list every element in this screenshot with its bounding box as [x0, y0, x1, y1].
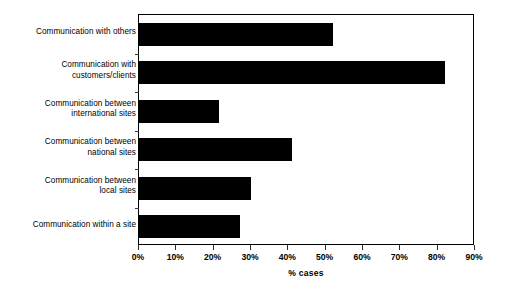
- bar-row: [139, 131, 473, 170]
- category-label-line: customers/clients: [4, 71, 136, 82]
- x-axis-tick: [362, 245, 363, 250]
- x-axis-tick-label: 70%: [379, 252, 419, 262]
- bar: [139, 100, 219, 123]
- x-axis-tick-label: 10%: [155, 252, 195, 262]
- x-axis-tick-labels: 0%10%20%30%40%50%60%70%80%90%: [0, 252, 507, 266]
- x-axis-tick-label: 40%: [267, 252, 307, 262]
- category-label-line: Communication with: [4, 60, 136, 71]
- category-label: Communication betweennational sites: [4, 137, 136, 158]
- x-axis-tick-label: 0%: [118, 252, 158, 262]
- x-axis-tick: [287, 245, 288, 250]
- x-axis-tick-label: 50%: [305, 252, 345, 262]
- category-label-line: Communication between: [4, 137, 136, 148]
- category-label-line: Communication between: [4, 176, 136, 187]
- x-axis-tick: [250, 245, 251, 250]
- bar-row: [139, 54, 473, 93]
- y-axis-tick: [135, 208, 139, 209]
- bar-row: [139, 169, 473, 208]
- x-axis-ticks: [138, 245, 474, 250]
- category-label: Communication with others: [4, 27, 136, 38]
- y-axis-tick: [135, 169, 139, 170]
- bar: [139, 61, 445, 84]
- x-axis-title: % cases: [138, 268, 474, 278]
- category-label-line: local sites: [4, 186, 136, 197]
- category-label-line: international sites: [4, 109, 136, 120]
- x-axis-tick-label: 90%: [454, 252, 494, 262]
- bar: [139, 177, 251, 200]
- x-axis-tick: [213, 245, 214, 250]
- bar-row: [139, 15, 473, 54]
- category-label-line: Communication with others: [4, 27, 136, 38]
- x-axis-tick-label: 80%: [417, 252, 457, 262]
- x-axis-tick: [325, 245, 326, 250]
- category-label: Communication betweenlocal sites: [4, 176, 136, 197]
- x-axis-tick-label: 60%: [342, 252, 382, 262]
- bar-chart-figure: Communication with othersCommunication w…: [0, 0, 507, 291]
- bar: [139, 23, 333, 46]
- x-axis-tick: [474, 245, 475, 250]
- category-label: Communication betweeninternational sites: [4, 99, 136, 120]
- y-axis-tick: [135, 131, 139, 132]
- category-label: Communication within a site: [4, 220, 136, 231]
- bar-row: [139, 92, 473, 131]
- x-axis-tick-label: 20%: [193, 252, 233, 262]
- x-axis-tick: [399, 245, 400, 250]
- y-axis-tick: [135, 54, 139, 55]
- x-axis-tick: [437, 245, 438, 250]
- bar: [139, 215, 240, 238]
- x-axis-tick-label: 30%: [230, 252, 270, 262]
- bar-row: [139, 208, 473, 247]
- y-axis-tick: [135, 92, 139, 93]
- category-label: Communication withcustomers/clients: [4, 60, 136, 81]
- x-axis-tick: [138, 245, 139, 250]
- plot-area: [138, 14, 474, 245]
- x-axis-tick: [175, 245, 176, 250]
- category-label-line: national sites: [4, 148, 136, 159]
- category-label-line: Communication between: [4, 99, 136, 110]
- category-label-line: Communication within a site: [4, 220, 136, 231]
- bar: [139, 138, 292, 161]
